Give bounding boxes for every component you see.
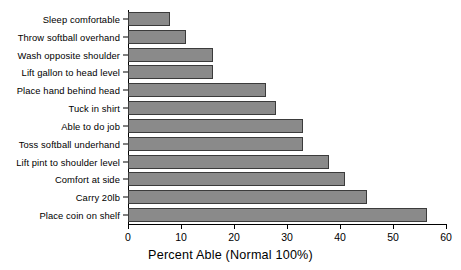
bar-category-label: Able to do job bbox=[61, 120, 120, 131]
bar-row: Sleep comfortable bbox=[128, 10, 446, 28]
bar bbox=[128, 101, 276, 115]
x-axis-tick-label: 50 bbox=[387, 231, 399, 243]
bar bbox=[128, 137, 303, 151]
bar-row: Carry 20lb bbox=[128, 188, 446, 206]
x-axis-tick bbox=[181, 224, 182, 229]
bar-category-label: Place coin on shelf bbox=[39, 210, 120, 221]
bar bbox=[128, 48, 213, 62]
bar-row: Toss softball underhand bbox=[128, 135, 446, 153]
x-axis-tick-label: 40 bbox=[334, 231, 346, 243]
x-axis-tick bbox=[446, 224, 447, 229]
bar-chart: Sleep comfortableThrow softball overhand… bbox=[0, 0, 461, 270]
bar-category-label: Throw softball overhand bbox=[18, 31, 120, 42]
bar bbox=[128, 190, 367, 204]
x-axis-tick-label: 0 bbox=[125, 231, 131, 243]
bar-row: Place coin on shelf bbox=[128, 206, 446, 224]
bar-row: Lift gallon to head level bbox=[128, 64, 446, 82]
plot-area: Sleep comfortableThrow softball overhand… bbox=[128, 10, 446, 224]
x-axis-tick bbox=[234, 224, 235, 229]
x-axis-tick-label: 60 bbox=[440, 231, 452, 243]
bar bbox=[128, 172, 345, 186]
bar bbox=[128, 30, 186, 44]
bar bbox=[128, 83, 266, 97]
bar-category-label: Toss softball underhand bbox=[19, 138, 120, 149]
bar bbox=[128, 12, 170, 26]
x-axis-tick bbox=[393, 224, 394, 229]
x-axis-tick-label: 20 bbox=[228, 231, 240, 243]
bar-row: Able to do job bbox=[128, 117, 446, 135]
x-axis-tick-label: 30 bbox=[281, 231, 293, 243]
bar-category-label: Carry 20lb bbox=[76, 192, 120, 203]
bar bbox=[128, 208, 427, 222]
x-axis-tick bbox=[287, 224, 288, 229]
bar-row: Place hand behind head bbox=[128, 81, 446, 99]
bar-category-label: Lift gallon to head level bbox=[22, 67, 120, 78]
bar-category-label: Wash opposite shoulder bbox=[18, 49, 120, 60]
bar bbox=[128, 155, 329, 169]
bar bbox=[128, 119, 303, 133]
bar-category-label: Tuck in shirt bbox=[69, 103, 120, 114]
bar-row: Tuck in shirt bbox=[128, 99, 446, 117]
bar-row: Lift pint to shoulder level bbox=[128, 153, 446, 171]
bar bbox=[128, 65, 213, 79]
x-axis-tick bbox=[340, 224, 341, 229]
bar-category-label: Place hand behind head bbox=[17, 85, 120, 96]
bar-row: Wash opposite shoulder bbox=[128, 46, 446, 64]
bar-row: Throw softball overhand bbox=[128, 28, 446, 46]
bar-category-label: Lift pint to shoulder level bbox=[16, 156, 120, 167]
bar-category-label: Sleep comfortable bbox=[43, 13, 120, 24]
bar-category-label: Comfort at side bbox=[55, 174, 120, 185]
x-axis-title: Percent Able (Normal 100%) bbox=[0, 248, 461, 262]
x-axis-tick bbox=[128, 224, 129, 229]
bar-row: Comfort at side bbox=[128, 171, 446, 189]
x-axis-tick-label: 10 bbox=[175, 231, 187, 243]
